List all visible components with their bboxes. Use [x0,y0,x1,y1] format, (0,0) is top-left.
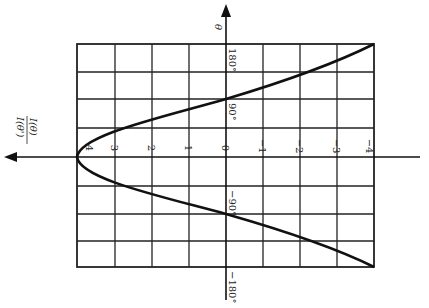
tick-label: −4 [364,139,375,154]
tick-label: 0 [220,145,231,151]
ratio-tick-labels: 4 3 2 1 0 −1 −2 −3 −4 [84,139,375,154]
theta-label: −90° [227,190,238,216]
chart: 4 3 2 1 0 −1 −2 −3 −4 180° 90° −90° −180… [0,0,429,308]
ratio-label-denominator: I(θ') [15,116,26,138]
ratio-axis [4,152,420,162]
tick-label: −3 [331,139,342,154]
tick-label: −1 [257,139,268,154]
tick-label: −2 [294,139,305,154]
tick-label: 3 [109,145,120,151]
tick-label: 4 [84,145,95,151]
theta-axis-label: θ [213,24,224,30]
arrow-left-icon [4,152,17,162]
tick-label: 1 [183,145,194,151]
tick-label: 2 [146,145,157,151]
ratio-axis-label: I(θ) I(θ') [15,116,39,144]
theta-label: 90° [227,103,238,121]
ratio-label-numerator: I(θ) [28,117,39,136]
theta-label: −180° [227,271,238,303]
theta-label: 180° [227,48,238,72]
arrow-up-icon [221,4,231,17]
